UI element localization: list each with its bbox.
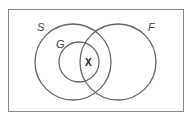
venn-diagram: S F G X xyxy=(0,0,191,117)
set-g-circle xyxy=(59,42,99,82)
set-s-label: S xyxy=(37,21,45,33)
element-x-marker: X xyxy=(85,57,92,68)
set-f-label: F xyxy=(148,21,156,33)
set-g-label: G xyxy=(56,38,65,50)
